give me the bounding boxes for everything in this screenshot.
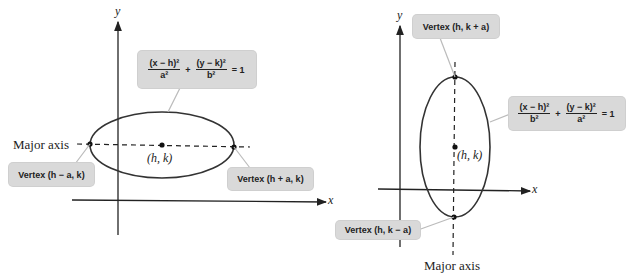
callout-leader xyxy=(440,38,455,77)
left-y-axis-label: y xyxy=(115,4,120,19)
eq-term1-numerator: (x − h)² xyxy=(518,102,550,114)
callout-leader xyxy=(168,88,180,112)
eq-term1-numerator: (x − h)² xyxy=(148,58,180,70)
callout-leader xyxy=(490,114,510,122)
diagram-canvas xyxy=(0,0,632,279)
left-center-label: (h, k) xyxy=(147,151,172,166)
right-major-axis-label: Major axis xyxy=(424,258,480,274)
eq-term2-numerator: (y − k)² xyxy=(566,102,597,114)
eq-rhs: = 1 xyxy=(232,65,245,75)
left-center-point xyxy=(159,142,164,147)
left-x-axis-label: x xyxy=(328,193,333,208)
eq-term1-denominator: b² xyxy=(530,114,539,125)
left-equation-callout: (x − h)²a² + (y − k)²b² = 1 xyxy=(138,51,256,88)
vertex-left-callout: Vertex (h − a, k) xyxy=(9,163,94,186)
right-x-axis-label: x xyxy=(532,182,537,197)
callout-leader xyxy=(418,217,454,230)
left-x-axis xyxy=(72,200,326,202)
callout-leader xyxy=(75,144,90,164)
right-equation-callout: (x − h)²b² + (y − k)²a² = 1 xyxy=(509,97,625,130)
eq-term2-numerator: (y − k)² xyxy=(196,58,227,70)
right-y-axis-label: y xyxy=(397,8,402,23)
eq-plus: + xyxy=(185,65,190,75)
right-major-axis-dashed xyxy=(453,62,455,255)
vertex-right-callout: Vertex (h + a, k) xyxy=(228,168,313,190)
eq-term1-denominator: a² xyxy=(160,70,168,81)
vertex-bottom-callout: Vertex (h, k − a) xyxy=(336,221,420,239)
eq-plus: + xyxy=(555,109,560,119)
eq-term2-denominator: a² xyxy=(577,114,585,125)
right-center-label: (h, k) xyxy=(457,148,482,163)
eq-rhs: = 1 xyxy=(602,109,615,119)
left-major-axis-label: Major axis xyxy=(13,137,69,153)
callout-leader xyxy=(234,147,250,168)
eq-term2-denominator: b² xyxy=(207,70,216,81)
vertex-top-callout: Vertex (h, k + a) xyxy=(413,15,499,38)
